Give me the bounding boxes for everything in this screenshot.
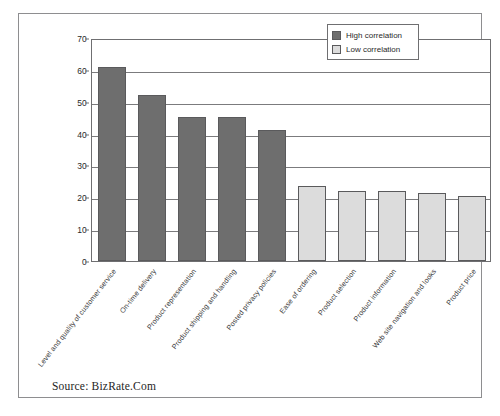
y-tick-label: 20: [53, 193, 87, 203]
x-tick-label: Product information: [351, 267, 398, 323]
bar-slot: [172, 40, 212, 261]
y-tick-label: 70: [53, 34, 87, 44]
y-tick-mark: [85, 102, 89, 103]
y-tick-label: 40: [53, 130, 87, 140]
y-tick-mark: [85, 166, 89, 167]
source-caption: Source: BizRate.Com: [52, 380, 156, 392]
figure-frame: 010203040506070 Level and quality of cus…: [18, 13, 482, 398]
y-tick-label: 10: [53, 225, 87, 235]
x-axis-labels: Level and quality of customer serviceOn-…: [91, 263, 491, 383]
legend-swatch-icon: [332, 45, 341, 54]
bar-slot: [332, 40, 372, 261]
x-tick-label: On-time delivery: [118, 267, 158, 315]
bar-slot: [212, 40, 252, 261]
y-tick-label: 0: [53, 257, 87, 267]
bar-slot: [92, 40, 132, 261]
bar-slot: [372, 40, 412, 261]
y-tick-mark: [85, 262, 89, 263]
bar-slot: [132, 40, 172, 261]
legend-swatch-icon: [332, 31, 341, 40]
plot-area: [91, 39, 491, 262]
bar[interactable]: [138, 95, 166, 261]
x-tick-label: Ease of ordering: [278, 267, 319, 315]
x-tick-label: Product selection: [316, 267, 358, 317]
bar[interactable]: [298, 186, 326, 261]
bar[interactable]: [378, 191, 406, 261]
bar-slot: [412, 40, 452, 261]
y-tick-mark: [85, 198, 89, 199]
x-tick-label: Product price: [444, 267, 478, 307]
bar[interactable]: [218, 117, 246, 261]
bar[interactable]: [458, 196, 486, 261]
y-tick-mark: [85, 39, 89, 40]
legend-item[interactable]: High correlation: [332, 28, 414, 42]
bar-series: [92, 40, 490, 261]
bar[interactable]: [418, 193, 446, 261]
y-tick-mark: [85, 134, 89, 135]
legend-label: Low correlation: [346, 45, 400, 54]
bar[interactable]: [98, 67, 126, 261]
bar[interactable]: [258, 130, 286, 261]
x-tick-label: Level and quality of customer service: [36, 267, 118, 369]
figure: 010203040506070 Level and quality of cus…: [0, 0, 500, 416]
chart-legend: High correlationLow correlation: [327, 24, 419, 60]
y-tick-mark: [85, 230, 89, 231]
bar-slot: [292, 40, 332, 261]
y-tick-label: 50: [53, 98, 87, 108]
bar-slot: [252, 40, 292, 261]
bar[interactable]: [338, 191, 366, 261]
y-axis: 010203040506070: [47, 39, 87, 262]
bar-slot: [452, 40, 492, 261]
legend-item[interactable]: Low correlation: [332, 42, 414, 56]
y-tick-mark: [85, 70, 89, 71]
legend-label: High correlation: [346, 31, 402, 40]
y-tick-label: 30: [53, 161, 87, 171]
y-tick-label: 60: [53, 66, 87, 76]
bar[interactable]: [178, 117, 206, 261]
